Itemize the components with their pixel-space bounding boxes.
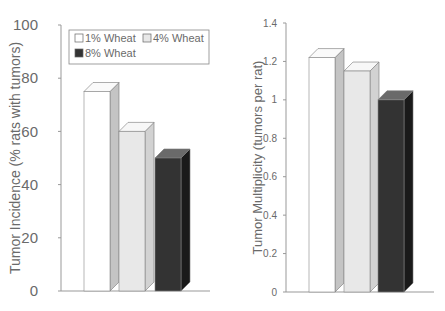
y-tick-label: 0.2 [263,248,277,259]
y-tick-label: 0 [271,287,277,298]
bar-4-wheat [119,122,154,291]
y-tick-label: 60 [21,123,38,140]
tumor-incidence-chart: 020406080100Tumor Incidence (% rats with… [0,0,222,311]
y-tick-label: 20 [21,229,38,246]
y-tick-label: 0 [30,282,38,299]
y-tick-label: 80 [21,69,38,86]
legend-entry: 8% Wheat [85,47,136,59]
y-tick-label: 40 [21,176,38,193]
legend-entry: 1% Wheat [85,32,136,44]
y-tick-label: 0.4 [263,210,277,221]
tumor-multiplicity-chart: 00.20.40.60.811.21.4Tumor Multiplicity (… [222,0,445,311]
legend-swatch [75,34,83,42]
y-axis-label: Tumor Incidence (% rats with tumors) [7,42,23,274]
legend-swatch [143,34,151,42]
legend: 1% Wheat4% Wheat8% Wheat [69,30,209,64]
y-tick-label: 0.8 [263,133,277,144]
bar-8-wheat [155,149,190,291]
y-axis-label: Tumor Multiplicity (tumors per rat) [250,61,265,255]
bar-1-wheat [309,49,344,292]
y-tick-label: 1 [271,94,277,105]
legend-entry: 4% Wheat [153,32,204,44]
y-tick-label: 1.2 [263,56,277,67]
legend-swatch [75,49,83,57]
y-tick-label: 0.6 [263,171,277,182]
bar-8-wheat [378,91,413,292]
bar-4-wheat [344,62,379,292]
bar-1-wheat [84,83,119,292]
y-tick-label: 100 [13,16,38,33]
y-tick-label: 1.4 [263,18,277,29]
